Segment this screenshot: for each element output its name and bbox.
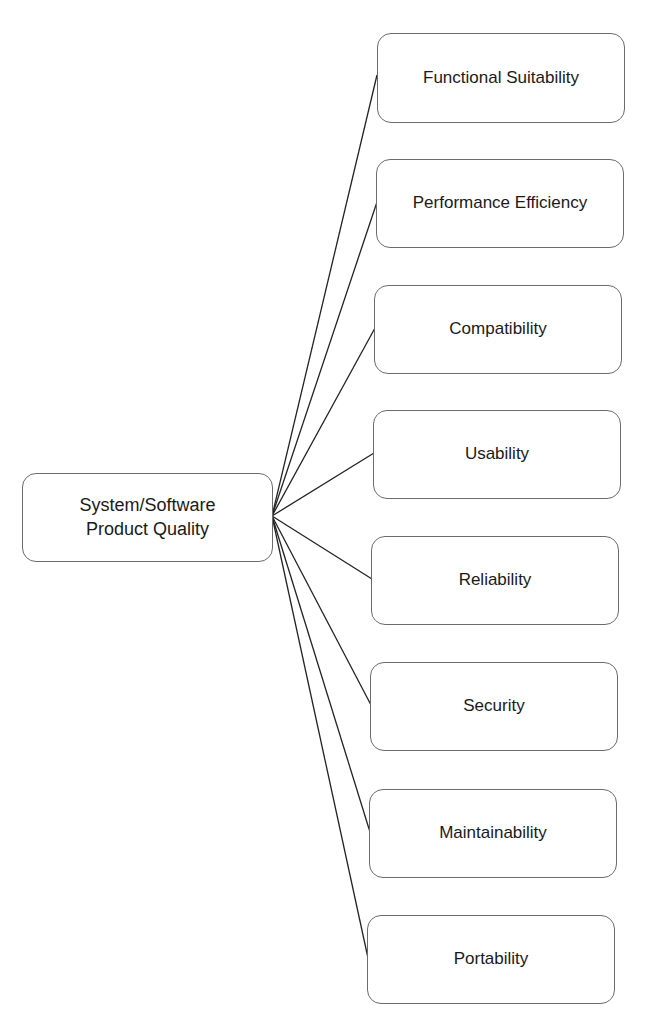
node-label: Reliability [459,569,532,591]
node-label: Usability [465,443,529,465]
node-label: Portability [454,948,529,970]
root-label-line1: System/Software [79,494,215,517]
node-usability: Usability [373,410,621,499]
root-node: System/Software Product Quality [22,473,273,562]
node-label: Functional Suitability [423,67,579,89]
node-functional-suitability: Functional Suitability [377,33,625,123]
node-performance-efficiency: Performance Efficiency [376,159,624,248]
node-portability: Portability [367,915,615,1004]
node-reliability: Reliability [371,536,619,625]
node-compatibility: Compatibility [374,285,622,374]
node-security: Security [370,662,618,751]
node-maintainability: Maintainability [369,789,617,878]
node-label: Compatibility [449,318,546,340]
root-label-line2: Product Quality [79,518,215,541]
node-label: Security [463,695,524,717]
node-label: Performance Efficiency [413,192,587,214]
node-label: Maintainability [439,822,547,844]
